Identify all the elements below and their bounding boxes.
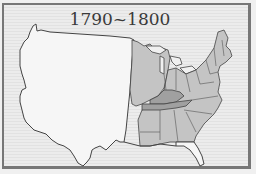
western-territory [20,24,134,166]
florida [176,142,204,166]
map-title: 1790~1800 [0,9,248,29]
